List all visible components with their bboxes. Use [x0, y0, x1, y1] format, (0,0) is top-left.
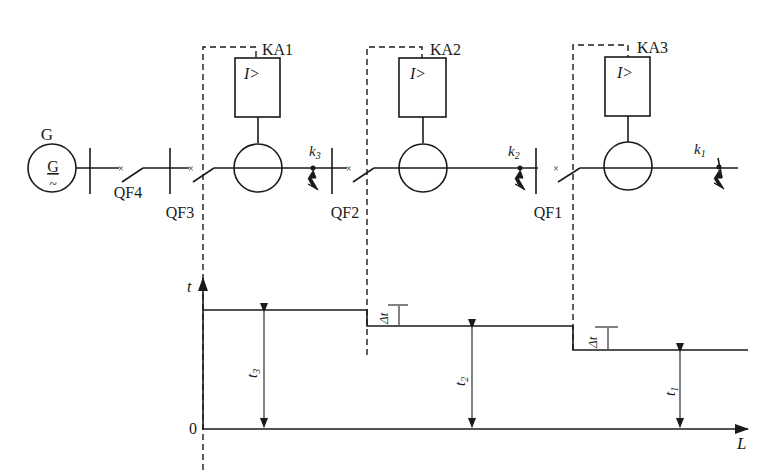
delta-t-label: Δt	[376, 312, 391, 325]
l-axis-label: L	[736, 434, 746, 453]
fault-k2-label: k2	[508, 143, 520, 161]
lightning-fault-icon	[308, 170, 318, 190]
t2-label: t2	[452, 377, 470, 386]
trip-line-ka1	[203, 47, 256, 470]
relay-ka1-label: KA1	[262, 41, 293, 58]
svg-text:×: ×	[188, 163, 194, 174]
fault-k3: k3	[308, 143, 321, 190]
protection-diagram: G G ~ × × × × QF4 QF3 QF2 QF1 KA1 I>	[0, 0, 771, 475]
relay-ka3-label: KA3	[637, 39, 668, 56]
delta-t-2: Δt	[585, 327, 618, 349]
fault-k1-label: k1	[694, 141, 706, 159]
fault-k3-label: k3	[309, 143, 321, 161]
diagram-svg: G G ~ × × × × QF4 QF3 QF2 QF1 KA1 I>	[0, 0, 771, 475]
generator-symbol: G	[47, 158, 59, 175]
t1-label: t1	[662, 387, 680, 396]
relay-ka1: KA1 I>	[203, 41, 293, 470]
origin-label: 0	[189, 420, 197, 437]
svg-text:×: ×	[118, 163, 124, 174]
trip-line-ka2	[367, 47, 422, 355]
generator-label: G	[41, 125, 53, 144]
breaker-qf1-label: QF1	[534, 204, 562, 221]
trip-line-ka3	[573, 45, 628, 350]
relay-ka1-function: I>	[243, 65, 260, 82]
breaker-qf1-contact	[558, 168, 580, 182]
generator-ac-symbol: ~	[49, 177, 57, 192]
delta-t-label: Δt	[585, 336, 600, 349]
breaker-qf3-label: QF3	[166, 204, 194, 221]
t-axis-label: t	[187, 278, 192, 295]
breaker-qf2-contact	[353, 168, 374, 182]
fault-k2: k2	[508, 143, 525, 190]
breaker-qf4-contact	[122, 168, 143, 182]
relay-ka3: KA3 I>	[573, 39, 668, 350]
t3-label: t3	[244, 369, 262, 378]
breaker-qf4-label: QF4	[114, 184, 142, 201]
svg-text:×: ×	[346, 163, 352, 174]
breaker-qf2-label: QF2	[331, 204, 359, 221]
current-transformer-ka3-icon	[604, 142, 652, 190]
relay-ka2: KA2 I>	[367, 41, 461, 355]
lightning-fault-icon	[515, 170, 525, 190]
delta-t-1: Δt	[376, 305, 408, 325]
relay-ka2-function: I>	[409, 65, 426, 82]
relay-ka2-label: KA2	[430, 41, 461, 58]
relay-ka3-function: I>	[616, 64, 633, 81]
time-step-curve	[203, 310, 748, 350]
fault-k1: k1	[694, 141, 724, 189]
svg-text:×: ×	[553, 163, 559, 174]
generator: G G ~	[28, 125, 76, 192]
time-chart: t L 0 t3 t2 t1 Δt Δt	[187, 278, 748, 453]
lightning-fault-icon	[714, 170, 724, 189]
